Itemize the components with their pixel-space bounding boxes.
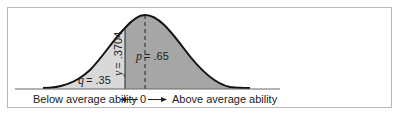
above-average-label: Above average ability [172, 93, 278, 105]
right-arrow-icon [161, 97, 167, 102]
zero-label: 0 [140, 93, 146, 105]
q-label: q= .35 [78, 73, 111, 87]
normal-curve-diagram: q= .35 p= .65 y= .3704 Below average abi… [0, 0, 401, 118]
p-label: p= .65 [135, 49, 169, 63]
